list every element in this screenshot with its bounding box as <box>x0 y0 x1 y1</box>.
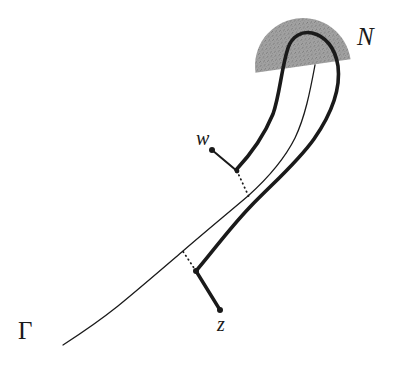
half-disc-shape <box>249 12 351 73</box>
z-connector-segment <box>196 271 220 310</box>
shaded-region-N <box>249 12 351 73</box>
label-gamma: Γ <box>18 318 32 343</box>
tube-corner-near-z-dot <box>193 268 199 274</box>
w-dotted-connector <box>237 171 249 197</box>
figure-root: Γ N w z <box>0 0 412 370</box>
label-neighborhood-n: N <box>357 24 374 49</box>
label-point-z: z <box>217 314 225 334</box>
diagram-canvas <box>0 0 412 370</box>
z-dotted-connector <box>182 250 196 271</box>
point-w-dot <box>209 147 215 153</box>
tube-corner-near-w-dot <box>235 169 240 174</box>
label-point-w: w <box>196 128 209 148</box>
gamma-curve <box>63 65 315 345</box>
w-connector-segment <box>212 150 237 171</box>
